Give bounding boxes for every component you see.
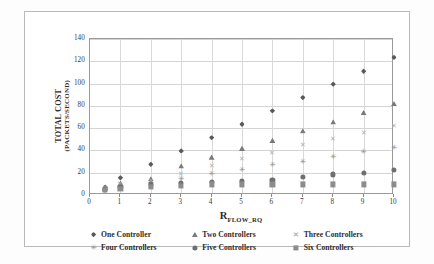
legend-item-two-controllers[interactable]: Two Controllers	[190, 230, 291, 239]
square-marker-icon	[331, 182, 336, 187]
circle-marker-icon	[391, 167, 396, 172]
circle-marker-icon	[300, 174, 305, 179]
legend-item-four-controllers[interactable]: ✳Four Controllers	[89, 243, 190, 252]
square-marker-icon	[391, 182, 396, 187]
figure-canvas: TOTAL COST (PACKETS/SECOND) 020406080100…	[0, 0, 434, 264]
square-marker-icon	[118, 186, 123, 191]
x-tick-mark	[302, 194, 303, 197]
legend-label: Two Controllers	[202, 230, 255, 239]
star-marker-icon: ✳	[361, 149, 367, 155]
diamond-marker-icon	[391, 55, 396, 60]
y-tick-label: 140	[51, 34, 85, 42]
x-axis-title: RFLOW_RQ	[89, 210, 393, 223]
triangle-marker-icon	[391, 101, 397, 106]
data-point	[300, 95, 305, 100]
y-tick-label: 120	[51, 56, 85, 64]
legend-item-one-controller[interactable]: One Controller	[89, 230, 190, 239]
diamond-marker-icon	[270, 108, 275, 113]
cross-marker-icon: ✕	[391, 123, 397, 129]
x-tick-mark	[180, 194, 181, 197]
x-tick-mark	[332, 194, 333, 197]
data-point	[391, 101, 397, 106]
y-tick-label: 40	[51, 145, 85, 153]
x-tick-label: 3	[178, 198, 182, 206]
legend-item-five-controllers[interactable]: Five Controllers	[190, 243, 291, 252]
square-marker-icon	[300, 182, 305, 187]
data-point	[361, 170, 366, 175]
y-gridline	[90, 128, 392, 129]
data-point	[178, 148, 183, 153]
y-gridline	[90, 106, 392, 107]
y-gridline	[90, 61, 392, 62]
data-point	[209, 154, 215, 159]
triangle-marker-icon	[361, 110, 367, 115]
x-tick-label: 10	[389, 198, 396, 206]
triangle-marker-icon	[300, 128, 306, 133]
data-point	[300, 128, 306, 133]
chart-legend: One ControllerTwo Controllers✕Three Cont…	[89, 228, 393, 254]
data-point	[300, 182, 305, 187]
data-point	[331, 182, 336, 187]
x-gridline	[303, 39, 304, 193]
star-marker-icon: ✳	[209, 171, 215, 177]
triangle-marker-icon	[178, 163, 184, 168]
legend-marker: ✕	[292, 230, 301, 239]
triangle-marker-icon	[269, 138, 275, 143]
star-marker-icon: ✳	[239, 167, 245, 173]
x-gridline	[333, 39, 334, 193]
star-marker-icon: ✳	[91, 245, 97, 251]
legend-item-three-controllers[interactable]: ✕Three Controllers	[292, 230, 393, 239]
x-gridline	[272, 39, 273, 193]
data-point: ✳	[361, 149, 367, 155]
y-tick-label: 60	[51, 123, 85, 131]
data-point: ✳	[330, 154, 336, 160]
data-point	[178, 163, 184, 168]
cross-marker-icon: ✕	[330, 136, 336, 142]
x-gridline	[151, 39, 152, 193]
y-gridline	[90, 39, 392, 40]
data-point	[391, 182, 396, 187]
square-marker-icon	[270, 182, 275, 187]
diamond-marker-icon	[361, 69, 366, 74]
data-point	[391, 55, 396, 60]
cross-marker-icon: ✕	[300, 142, 306, 148]
legend-label: One Controller	[101, 230, 151, 239]
circle-marker-icon	[192, 245, 197, 250]
legend-item-six-controllers[interactable]: Six Controllers	[292, 243, 393, 252]
data-point: ✳	[300, 159, 306, 165]
data-point	[148, 162, 153, 167]
data-point: ✕	[300, 142, 306, 148]
x-tick-mark	[89, 194, 90, 197]
data-point: ✕	[269, 150, 275, 156]
y-tick-label: 100	[51, 79, 85, 87]
circle-marker-icon	[361, 170, 366, 175]
x-axis-title-subscript: FLOW_RQ	[228, 216, 263, 223]
data-point	[148, 185, 153, 190]
data-point	[331, 172, 336, 177]
data-point	[209, 182, 214, 187]
x-tick-label: 2	[148, 198, 152, 206]
data-point	[300, 174, 305, 179]
square-marker-icon	[148, 185, 153, 190]
y-tick-label: 20	[51, 168, 85, 176]
triangle-marker-icon	[239, 145, 245, 150]
x-gridline	[120, 39, 121, 193]
data-point: ✳	[391, 145, 397, 151]
x-tick-mark	[363, 194, 364, 197]
data-point	[330, 119, 336, 124]
x-tick-label: 0	[87, 198, 91, 206]
cross-marker-icon: ✕	[269, 150, 275, 156]
data-point	[330, 81, 335, 86]
triangle-marker-icon	[330, 119, 336, 124]
cross-marker-icon: ✕	[239, 156, 245, 162]
x-tick-label: 1	[118, 198, 122, 206]
square-marker-icon	[294, 245, 299, 250]
data-point	[361, 110, 367, 115]
diamond-marker-icon	[148, 162, 153, 167]
diamond-marker-icon	[300, 95, 305, 100]
star-marker-icon: ✳	[391, 145, 397, 151]
x-tick-mark	[393, 194, 394, 197]
data-point	[209, 135, 214, 140]
data-point	[391, 167, 396, 172]
x-axis-title-base: R	[220, 210, 228, 221]
